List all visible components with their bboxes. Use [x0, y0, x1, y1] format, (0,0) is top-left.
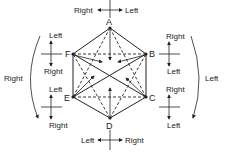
bottom-axis-right-label: Right — [125, 136, 144, 145]
dashed-edges — [73, 28, 146, 118]
vertex-e-label: E — [64, 93, 70, 103]
right-arc-label: Left — [205, 74, 219, 83]
hexagon-diagram: A B C D E F Right Left Left Right Left R… — [0, 0, 227, 156]
top-axis-right-label: Left — [125, 6, 139, 15]
vertex-d-label: D — [106, 121, 113, 131]
top-axis-left-label: Right — [74, 6, 93, 15]
vertex-b-label: B — [149, 49, 155, 59]
f-axis — [41, 41, 62, 66]
c-axis — [159, 95, 180, 119]
vertex-a-label: A — [106, 17, 112, 27]
e-axis-bottom-label: Right — [49, 121, 68, 130]
f-axis-bottom-label: Right — [44, 67, 63, 76]
b-axis — [159, 42, 180, 66]
b-axis-top-label: Right — [166, 32, 185, 41]
right-arc-arrow — [191, 36, 199, 118]
left-arc-label: Right — [4, 74, 23, 83]
vertex-dots — [71, 26, 147, 119]
c-axis-bottom-label: Left — [167, 121, 181, 130]
vertex-f-label: F — [65, 49, 71, 59]
e-axis — [41, 95, 62, 119]
c-axis-top-label: Right — [166, 85, 185, 94]
b-axis-bottom-label: Left — [167, 67, 181, 76]
vertex-c-label: C — [149, 93, 156, 103]
bottom-axis-left-label: Left — [81, 136, 95, 145]
f-axis-top-label: Left — [49, 31, 63, 40]
bottom-axis — [98, 130, 122, 150]
top-axis — [98, 0, 122, 18]
e-axis-top-label: Left — [49, 85, 63, 94]
left-arc-arrow — [30, 36, 40, 118]
